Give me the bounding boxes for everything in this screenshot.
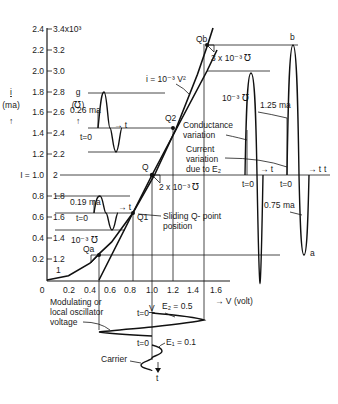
conductance-wave-arrow-t: → t	[260, 164, 274, 174]
x-origin: 0	[40, 285, 45, 295]
tick-v-1.6: 1.6	[210, 285, 222, 295]
x-tick-labels: 0 0.2 0.4 0.6 0.8 1.0 1.2 1.4 1.6	[40, 285, 223, 295]
equation-leader	[176, 84, 190, 95]
axis-t-label: t	[324, 164, 327, 174]
amp-026-label: 0.26 ma	[70, 105, 101, 115]
tick-g-2.6: 2.6	[53, 107, 65, 117]
point-b-label: b	[290, 32, 295, 42]
sliding-label-1: Sliding Q- point	[163, 211, 222, 221]
tick-g-1.6: 1.6	[53, 212, 65, 222]
carrier-leader	[130, 361, 141, 363]
modulating-label-3: voltage	[50, 317, 78, 327]
qa-label: Qa	[83, 244, 95, 254]
conductance-label-1: Conductance	[183, 120, 233, 130]
modulating-leader	[83, 322, 110, 330]
tick-g-2.4: 2.4	[53, 128, 65, 138]
tick-g-3.0: 3.0	[53, 66, 65, 76]
e1-t0: t=0	[137, 338, 149, 348]
q1-point	[131, 211, 135, 215]
conductance-wave-t0: t=0	[242, 179, 254, 189]
square-law-mixer-diagram: 2.4 2.2 2.0 1.8 1.6 1.4 1.2 I = 1.0 0.8 …	[0, 0, 338, 404]
right-tick-labels: 3.4x10³ 3.2 3.0 2.8 2.6 2.4 2.2 2 1.8 1.…	[53, 24, 82, 264]
left-axis-title: i (ma) ↑	[2, 87, 20, 126]
q1-label: Q1	[137, 212, 149, 222]
current-wave-arrow-t: → t	[308, 164, 322, 174]
conductance-leader	[226, 135, 247, 140]
equation-label: i = 10⁻³ V²	[146, 74, 186, 84]
amp-125-label: 1.25 ma	[260, 100, 291, 110]
tick-i-0.6: 0.6	[32, 212, 44, 222]
tick-g-2.8: 2.8	[53, 87, 65, 97]
tick-i-1.8: 1.8	[32, 87, 44, 97]
tick-v-0.8: 0.8	[124, 285, 136, 295]
qa-point	[97, 253, 101, 257]
tick-i-1.0: I = 1.0	[20, 170, 44, 180]
q2-label: Q2	[165, 113, 177, 123]
tick-i-1.6: 1.6	[32, 107, 44, 117]
tick-g-3.2: 3.2	[53, 45, 65, 55]
tick-g-1.2: 1.2	[53, 254, 65, 264]
tick-i-0.8: 0.8	[32, 191, 44, 201]
e2-label: E₂ = 0.5	[162, 301, 193, 311]
carrier-waveform	[141, 345, 162, 371]
left-tick-labels: 2.4 2.2 2.0 1.8 1.6 1.4 1.2 I = 1.0 0.8 …	[20, 24, 44, 264]
current-label-1: Current	[186, 144, 215, 154]
i-unit: (ma)	[2, 100, 20, 110]
point-a-label: a	[310, 248, 315, 258]
q-label: Q	[142, 162, 149, 172]
tick-i-1.4: 1.4	[32, 128, 44, 138]
current-label-2: variation	[186, 154, 218, 164]
carrier-label: Carrier	[101, 354, 127, 364]
amp-019-label: 0.19 ma	[70, 197, 101, 207]
g-up-arrow: ↑	[76, 116, 80, 126]
tick-v-1.2: 1.2	[167, 285, 179, 295]
tick-i-0.4: 0.4	[32, 233, 44, 243]
tick-i-1.2: 1.2	[32, 149, 44, 159]
conductance-label-2: variation	[183, 130, 215, 140]
v-label: V	[149, 303, 155, 313]
modulating-waveform	[99, 313, 204, 336]
e2-t0: t=0	[137, 308, 149, 318]
wave-q2-t0: t=0	[80, 132, 92, 142]
tick-g-3.4: 3.4x10³	[53, 24, 82, 34]
current-wave-t0: t=0	[280, 179, 292, 189]
q2-point	[171, 126, 175, 130]
current-label-3: due to E₂	[186, 164, 221, 174]
slope-qb-label: 3 x 10⁻³ ℧	[211, 53, 251, 63]
tick-v-0.6: 0.6	[104, 285, 116, 295]
wave-q2-arrow-t: → t	[114, 120, 128, 130]
tick-i-0.2: 0.2	[32, 254, 44, 264]
tick-i-2.4: 2.4	[32, 24, 44, 34]
tick-i-2.2: 2.2	[32, 45, 44, 55]
slope-qa-label: 10⁻³ ℧	[71, 235, 98, 245]
qb-label: Qb	[196, 34, 208, 44]
x-axis-title: → V (volt)	[215, 296, 253, 306]
sliding-label-2: position	[163, 221, 193, 231]
tick-v-1.4: 1.4	[187, 285, 199, 295]
time-down-label: t	[156, 373, 159, 383]
g-symbol: g	[76, 87, 81, 97]
y-ticks	[47, 29, 52, 259]
modulating-label-1: Modulating or	[50, 297, 102, 307]
i-symbol: i	[10, 87, 12, 97]
curve-index-1: 1	[56, 265, 61, 275]
i-up-arrow: ↑	[9, 116, 13, 126]
current-waveform	[287, 45, 309, 255]
tick-i-2.0: 2.0	[32, 66, 44, 76]
tick-v-0.2: 0.2	[63, 285, 75, 295]
tick-v-0.4: 0.4	[84, 285, 96, 295]
amp-125-leader	[258, 112, 287, 118]
tick-g-2.2: 2.2	[53, 149, 65, 159]
slope-q-label: 2 x 10⁻³ ℧	[159, 182, 199, 192]
slope-right-label: 10⁻³ ℧	[222, 93, 249, 103]
tick-g-1.4: 1.4	[53, 233, 65, 243]
wave-q1-arrow-t: → t	[118, 202, 132, 212]
e1-label: E₁ = 0.1	[166, 337, 196, 347]
modulating-label-2: local oscillator	[50, 307, 104, 317]
q-point	[150, 173, 154, 177]
amp-075-label: 0.75 ma	[264, 200, 295, 210]
wave-q1-t0: t=0	[76, 213, 88, 223]
tick-g-2: 2	[53, 170, 58, 180]
